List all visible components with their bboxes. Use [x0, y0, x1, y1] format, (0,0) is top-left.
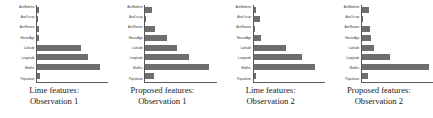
bar	[254, 54, 302, 60]
bar	[37, 26, 39, 32]
y-axis-tick-label: AveRooms	[345, 26, 361, 30]
bar	[254, 35, 261, 41]
bar-row	[145, 73, 216, 80]
y-axis-tick-label: HouseAge	[129, 36, 145, 40]
bar-row	[362, 73, 433, 80]
plot-area: AveBedrmsAveOccupAveRoomsHouseAgeLatitud…	[110, 5, 216, 83]
y-axis-tick-label: Longitude	[346, 57, 361, 61]
bar-row	[145, 44, 216, 51]
y-axis-tick-label: AveRooms	[20, 26, 36, 30]
caption-line: Observation 2	[221, 96, 321, 107]
bar	[37, 73, 40, 79]
bar-row	[145, 25, 216, 32]
bar	[362, 45, 374, 51]
bar-row	[37, 54, 108, 61]
y-axis-labels: AveBedrmsAveOccupAveRoomsHouseAgeLatitud…	[219, 5, 253, 83]
y-axis-tick-label: AveOccup	[345, 16, 360, 20]
bar	[362, 64, 430, 70]
y-axis-tick-label: Population	[129, 77, 145, 81]
bar-row	[362, 35, 433, 42]
bar-row	[254, 73, 325, 80]
caption-line: Lime features:	[221, 85, 321, 96]
bar	[145, 16, 146, 22]
y-axis-tick-label: Latitude	[240, 47, 252, 51]
y-axis-tick-label: AveOccup	[129, 16, 144, 20]
y-axis-tick-label: Population	[20, 77, 36, 81]
caption-line: Observation 2	[329, 96, 429, 107]
y-axis-tick-label: MedInc	[349, 67, 360, 71]
caption-line: Proposed features:	[112, 85, 212, 96]
y-axis-tick-label: Latitude	[24, 47, 36, 51]
bar	[145, 26, 155, 32]
bar-row	[362, 44, 433, 51]
y-axis-tick-label: MedInc	[133, 67, 144, 71]
y-axis-tick-label: AveOccup	[237, 16, 252, 20]
bar-row	[145, 35, 216, 42]
y-axis-tick-label: AveRooms	[128, 26, 144, 30]
bar	[37, 16, 38, 22]
y-axis-labels: AveBedrmsAveOccupAveRoomsHouseAgeLatitud…	[110, 5, 144, 83]
y-axis-tick-label: MedInc	[241, 67, 252, 71]
y-axis-tick-label: AveRooms	[236, 26, 252, 30]
chart-panel-4: AveBedrmsAveOccupAveRoomsHouseAgeLatitud…	[325, 0, 433, 118]
bar	[362, 54, 391, 60]
bar-row	[37, 44, 108, 51]
y-axis-labels: AveBedrmsAveOccupAveRoomsHouseAgeLatitud…	[327, 5, 361, 83]
bar-row	[145, 54, 216, 61]
bar-row	[37, 35, 108, 42]
bar	[254, 73, 257, 79]
y-axis-tick-label: MedInc	[25, 67, 36, 71]
bar-row	[254, 25, 325, 32]
y-axis-tick-label: HouseAge	[20, 36, 36, 40]
y-axis-tick-label: Population	[237, 77, 253, 81]
bar-row	[37, 25, 108, 32]
panel-caption: Lime features:Observation 2	[217, 85, 325, 106]
y-axis-tick-label: Longitude	[21, 57, 36, 61]
bar-row	[37, 73, 108, 80]
bar	[254, 64, 315, 70]
bars-container	[253, 5, 325, 83]
y-axis-tick-label: AveBedrms	[19, 6, 36, 10]
y-axis-labels: AveBedrmsAveOccupAveRoomsHouseAgeLatitud…	[2, 5, 36, 83]
bar	[145, 35, 166, 41]
bar	[37, 35, 39, 41]
bar-row	[362, 54, 433, 61]
y-axis-tick-label: Longitude	[130, 57, 145, 61]
bar-row	[254, 6, 325, 13]
bar	[362, 26, 371, 32]
y-axis-tick-label: Latitude	[132, 47, 144, 51]
bar	[254, 7, 257, 13]
bar	[145, 7, 152, 13]
bar-row	[254, 35, 325, 42]
bars-container	[144, 5, 216, 83]
bars-container	[36, 5, 108, 83]
y-axis-tick-label: AveBedrms	[127, 6, 144, 10]
bar	[145, 45, 176, 51]
panel-caption: Proposed features:Observation 1	[108, 85, 216, 106]
y-axis-tick-label: AveBedrms	[236, 6, 253, 10]
y-axis-tick-label: Longitude	[238, 57, 253, 61]
bar	[37, 45, 81, 51]
panel-caption: Proposed features:Observation 2	[325, 85, 433, 106]
panel-caption: Lime features:Observation 1	[0, 85, 108, 106]
bar-row	[254, 63, 325, 70]
bar	[362, 35, 371, 41]
bar-row	[145, 16, 216, 23]
caption-line: Observation 1	[112, 96, 212, 107]
bar	[145, 73, 154, 79]
bar	[37, 7, 39, 13]
bar-row	[362, 16, 433, 23]
chart-panel-3: AveBedrmsAveOccupAveRoomsHouseAgeLatitud…	[217, 0, 325, 118]
y-axis-tick-label: HouseAge	[345, 36, 361, 40]
bars-container	[361, 5, 433, 83]
y-axis-tick-label: Latitude	[349, 47, 361, 51]
bar-row	[254, 16, 325, 23]
caption-line: Proposed features:	[329, 85, 429, 96]
bar	[145, 64, 209, 70]
bar-row	[145, 6, 216, 13]
y-axis-tick-label: AveBedrms	[344, 6, 361, 10]
bar	[254, 26, 255, 32]
lime-feature-importance-figure: AveBedrmsAveOccupAveRoomsHouseAgeLatitud…	[0, 0, 433, 118]
bar-row	[37, 6, 108, 13]
plot-area: AveBedrmsAveOccupAveRoomsHouseAgeLatitud…	[327, 5, 433, 83]
